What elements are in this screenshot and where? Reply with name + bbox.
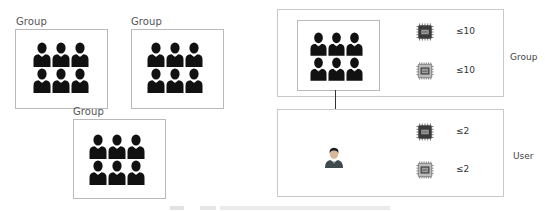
person-icon (147, 42, 165, 67)
cpu-chip-icon (416, 23, 434, 41)
person-icon (185, 68, 203, 93)
person-icon (108, 134, 126, 159)
cpu-chip-icon (416, 123, 434, 141)
group-label: Group (131, 16, 162, 27)
person-icon (89, 160, 107, 185)
group-people-icon (33, 42, 88, 93)
person-icon (52, 42, 70, 67)
user-side-label: User (513, 151, 534, 161)
person-icon (33, 42, 51, 67)
person-icon (89, 134, 107, 159)
person-icon (108, 160, 126, 185)
group-people-icon (310, 32, 362, 81)
group-people-icon (147, 42, 202, 93)
group-label: Group (16, 16, 47, 27)
group-people-icon (89, 134, 144, 185)
gpu-chip-icon (416, 62, 434, 80)
person-icon (346, 57, 363, 81)
person-icon (52, 68, 70, 93)
gpu-chip-icon (416, 161, 434, 179)
person-icon (328, 57, 345, 81)
user-quota-panel: ≤2 ≤2 (277, 109, 504, 197)
person-icon (185, 42, 203, 67)
group-quota-panel: ≤10 ≤10 (277, 9, 504, 97)
person-icon (71, 68, 89, 93)
person-icon (346, 32, 363, 56)
group-inner-box (297, 20, 380, 91)
group-label: Group (73, 106, 104, 117)
person-icon (127, 134, 145, 159)
person-icon (166, 68, 184, 93)
person-icon (33, 68, 51, 93)
person-icon (166, 42, 184, 67)
person-icon (127, 160, 145, 185)
group-side-label: Group (510, 52, 537, 62)
group-box (131, 29, 224, 109)
group-gpu-limit: ≤10 (456, 65, 475, 75)
group-box (73, 119, 166, 199)
group-cpu-limit: ≤10 (456, 26, 475, 36)
user-avatar-icon (324, 146, 344, 168)
person-icon (310, 32, 327, 56)
group-box (15, 29, 108, 109)
person-icon (147, 68, 165, 93)
user-gpu-limit: ≤2 (456, 164, 469, 174)
person-icon (71, 42, 89, 67)
person-icon (310, 57, 327, 81)
user-cpu-limit: ≤2 (456, 126, 469, 136)
person-icon (328, 32, 345, 56)
caption-fragment (170, 206, 390, 210)
